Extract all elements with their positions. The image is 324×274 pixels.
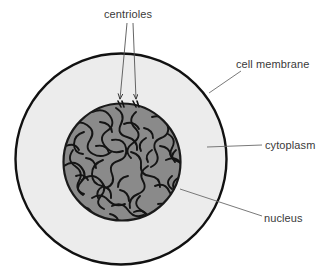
label-cytoplasm: cytoplasm <box>265 139 315 151</box>
label-centrioles: centrioles <box>104 8 152 20</box>
cell-diagram-canvas <box>0 0 324 274</box>
label-nucleus: nucleus <box>264 212 303 224</box>
leader-line-cell-membrane <box>209 71 241 93</box>
cell-diagram: centrioles cell membrane cytoplasm nucle… <box>0 0 324 274</box>
label-cell-membrane: cell membrane <box>236 58 309 70</box>
